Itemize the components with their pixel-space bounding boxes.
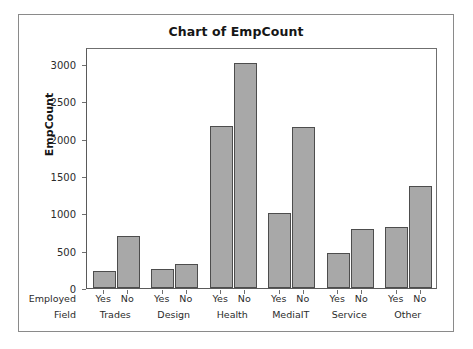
bar-health-no (234, 63, 257, 288)
y-tick-label: 500 (30, 246, 76, 257)
x-group-label-other: Other (368, 309, 448, 320)
y-tick-label: 2500 (30, 97, 76, 108)
y-tick-label: 1000 (30, 209, 76, 220)
y-tick-label: 3000 (30, 60, 76, 71)
bar-other-yes (385, 227, 408, 288)
y-tick-label: 2000 (30, 134, 76, 145)
bar-service-yes (327, 253, 350, 288)
bar-trades-yes (93, 271, 116, 288)
axis-caption-field: Field (12, 309, 76, 320)
bar-design-yes (151, 269, 174, 288)
bar-mediait-no (292, 127, 315, 288)
chart-container: Chart of EmpCount EmpCount 3000250020001… (0, 0, 473, 349)
bar-mediait-yes (268, 213, 291, 288)
bar-design-no (175, 264, 198, 288)
chart-title: Chart of EmpCount (18, 24, 454, 39)
bar-other-no (409, 186, 432, 288)
y-axis-title: EmpCount (43, 70, 56, 180)
bar-service-no (351, 229, 374, 288)
y-tick-mark (82, 289, 86, 290)
x-sublabel-no: No (400, 293, 440, 304)
y-tick-label: 1500 (30, 172, 76, 183)
axis-caption-employed: Employed (12, 293, 76, 304)
bar-health-yes (210, 126, 233, 288)
bar-trades-no (117, 236, 140, 288)
plot-area (86, 48, 437, 289)
